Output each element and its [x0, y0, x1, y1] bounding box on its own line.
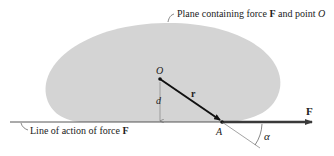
force-label-F: F — [306, 105, 313, 117]
moment-of-force-diagram: Plane containing force F and point O Lin… — [0, 0, 334, 156]
line-label-leader — [21, 123, 28, 130]
vector-label-r: r — [191, 88, 196, 99]
r-extension-line — [222, 122, 260, 148]
angle-alpha-arc — [255, 124, 262, 145]
line-of-action-label: Line of action of force F — [30, 125, 129, 136]
point-label-O: O — [156, 65, 163, 76]
angle-label-alpha: α — [264, 130, 270, 142]
plane-label: Plane containing force F and point O — [177, 8, 325, 19]
point-label-A: A — [215, 126, 223, 137]
plane-label-leader — [168, 14, 174, 22]
